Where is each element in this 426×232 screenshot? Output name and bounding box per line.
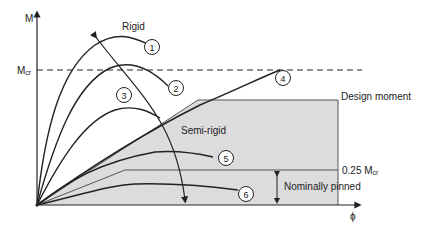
nominally-pinned-label: Nominally pinned	[284, 182, 361, 192]
semi-rigid-label: Semi-rigid	[181, 126, 226, 136]
curve-marker-3: 3	[116, 87, 132, 103]
x-axis-label: ϕ	[350, 212, 356, 222]
diagram-canvas	[0, 0, 426, 232]
quarter-mcr-sub: cr	[373, 169, 379, 176]
curve-marker-6: 6	[238, 186, 254, 202]
curve-marker-1: 1	[144, 39, 160, 55]
mcr-label-sub: cr	[25, 69, 31, 76]
design-moment-label: Design moment	[341, 92, 411, 102]
quarter-mcr-label: 0.25 Mcr	[342, 166, 378, 176]
y-axis-label: M	[25, 14, 33, 24]
curve-marker-4: 4	[275, 70, 291, 86]
quarter-mcr-main: 0.25 M	[342, 165, 373, 176]
curve-marker-2: 2	[168, 80, 184, 96]
rigid-label: Rigid	[122, 22, 145, 32]
moment-rotation-diagram: M Mcr ϕ Rigid Semi-rigid Design moment 0…	[0, 0, 426, 232]
curve-marker-5: 5	[218, 150, 234, 166]
mcr-label: Mcr	[17, 66, 31, 76]
